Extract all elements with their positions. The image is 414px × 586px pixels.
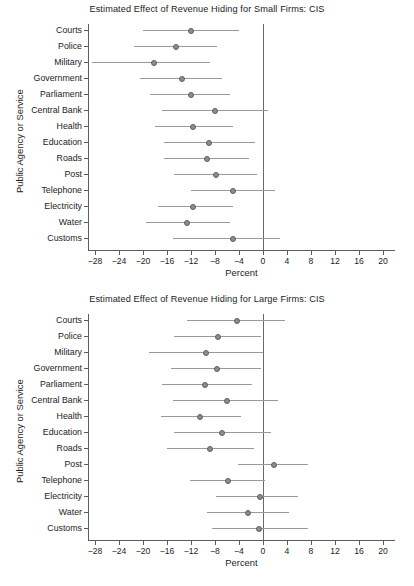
y-axis-category-label: Customs [47, 523, 82, 533]
y-axis-category-label: Roads [57, 443, 82, 453]
y-axis-tick [84, 206, 88, 207]
y-axis-tick [84, 46, 88, 47]
x-axis-tick [167, 251, 168, 255]
point-estimate-marker [271, 462, 277, 468]
point-estimate-marker [230, 188, 236, 194]
point-estimate-marker [256, 526, 262, 532]
y-axis-category-label: Courts [56, 25, 82, 35]
point-estimate-marker [206, 140, 212, 146]
chart-title: Estimated Effect of Revenue Hiding for S… [0, 4, 414, 14]
point-estimate-marker [214, 366, 220, 372]
x-axis-tick [215, 251, 216, 255]
x-axis-tick-label: −4 [234, 256, 244, 266]
y-axis-tick [84, 480, 88, 481]
y-axis-line [88, 314, 89, 540]
x-axis-tick [311, 251, 312, 255]
y-axis-tick [84, 158, 88, 159]
y-axis-tick [84, 336, 88, 337]
point-estimate-marker [225, 478, 231, 484]
x-axis-tick-label: −4 [234, 546, 244, 556]
x-axis-tick [191, 541, 192, 545]
x-axis-tick [263, 541, 264, 545]
point-estimate-marker [151, 60, 157, 66]
y-axis-tick [84, 464, 88, 465]
confidence-interval-bar [173, 238, 280, 239]
x-axis-tick-label: 20 [378, 546, 388, 556]
point-estimate-marker [203, 350, 209, 356]
point-estimate-marker [202, 382, 208, 388]
point-estimate-marker [213, 172, 219, 178]
x-axis-tick [287, 251, 288, 255]
x-axis-tick-label: −8 [210, 256, 220, 266]
y-axis-tick [84, 368, 88, 369]
point-estimate-marker [245, 510, 251, 516]
x-axis-tick [383, 251, 384, 255]
y-axis-tick [84, 190, 88, 191]
y-axis-category-label: Government [34, 363, 82, 373]
y-axis-tick [84, 238, 88, 239]
y-axis-tick [84, 512, 88, 513]
x-axis-tick-label: 8 [309, 546, 314, 556]
point-estimate-marker [224, 398, 230, 404]
plot-area-large-firms: −28−24−20−16−12−8−4048121620PercentPubli… [0, 314, 414, 566]
point-estimate-marker [219, 430, 225, 436]
x-axis-tick [359, 541, 360, 545]
y-axis-category-label: Telephone [41, 475, 82, 485]
x-axis-tick-label: −8 [210, 546, 220, 556]
x-axis-tick [263, 251, 264, 255]
point-estimate-marker [212, 108, 218, 114]
y-axis-tick [84, 94, 88, 95]
y-axis-category-label: Water [59, 507, 82, 517]
y-axis-category-label: Government [34, 73, 82, 83]
y-axis-category-label: Post [64, 169, 82, 179]
chart-panel-large-firms: Estimated Effect of Revenue Hiding for L… [0, 290, 414, 586]
y-axis-tick [84, 222, 88, 223]
x-axis-tick-label: −16 [160, 256, 175, 266]
y-axis-category-label: Water [59, 217, 82, 227]
y-axis-category-label: Education [43, 427, 82, 437]
point-estimate-marker [257, 494, 263, 500]
chart-title: Estimated Effect of Revenue Hiding for L… [0, 294, 414, 304]
x-axis-title: Percent [88, 557, 395, 568]
y-axis-category-label: Courts [56, 315, 82, 325]
x-axis-tick-label: 0 [261, 546, 266, 556]
point-estimate-marker [197, 414, 203, 420]
x-axis-tick-label: −28 [88, 256, 103, 266]
x-axis-tick [95, 251, 96, 255]
y-axis-tick [84, 62, 88, 63]
y-axis-category-label: Central Bank [31, 105, 82, 115]
x-axis-tick [215, 541, 216, 545]
x-axis-tick-label: 16 [354, 256, 364, 266]
y-axis-tick [84, 320, 88, 321]
y-axis-category-label: Telephone [41, 185, 82, 195]
y-axis-category-label: Electricity [44, 201, 82, 211]
y-axis-tick [84, 110, 88, 111]
y-axis-category-label: Military [54, 57, 82, 67]
y-axis-tick [84, 432, 88, 433]
point-estimate-marker [188, 28, 194, 34]
y-axis-title: Public Agency or Service [14, 89, 25, 193]
zero-reference-line [263, 314, 264, 540]
x-axis-tick [239, 541, 240, 545]
y-axis-category-label: Customs [47, 233, 82, 243]
x-axis-tick-label: −28 [88, 546, 103, 556]
x-axis-tick-label: 4 [285, 546, 290, 556]
x-axis-tick-label: −24 [112, 256, 127, 266]
point-estimate-marker [204, 156, 210, 162]
y-axis-tick [84, 126, 88, 127]
y-axis-tick [84, 352, 88, 353]
y-axis-tick [84, 416, 88, 417]
y-axis-category-label: Parliament [40, 89, 82, 99]
y-axis-tick [84, 528, 88, 529]
point-estimate-marker [184, 220, 190, 226]
point-estimate-marker [173, 44, 179, 50]
y-axis-tick [84, 174, 88, 175]
point-estimate-marker [188, 92, 194, 98]
x-axis-tick [119, 251, 120, 255]
x-axis-tick [335, 251, 336, 255]
x-axis-line [88, 250, 395, 251]
x-axis-tick [95, 541, 96, 545]
y-axis-category-label: Police [58, 41, 82, 51]
x-axis-line [88, 540, 395, 541]
x-axis-tick [119, 541, 120, 545]
